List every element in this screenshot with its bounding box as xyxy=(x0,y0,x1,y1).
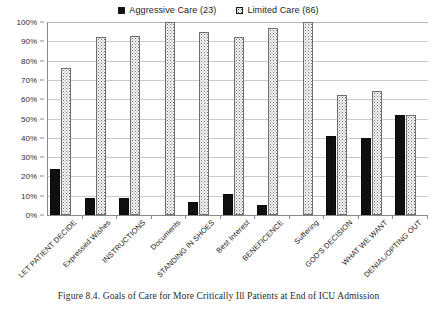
y-tick-label: 70% xyxy=(21,75,37,84)
y-tick-mark xyxy=(40,41,44,42)
y-tick-mark xyxy=(40,99,44,100)
bar-aggressive-care xyxy=(85,198,95,215)
figure-container: Aggressive Care (23) Limited Care (86) 0… xyxy=(0,0,437,311)
bar-limited-care xyxy=(165,22,175,215)
chart-legend: Aggressive Care (23) Limited Care (86) xyxy=(0,2,437,18)
bar-limited-care xyxy=(234,37,244,215)
bar-group xyxy=(289,22,324,215)
bar-group xyxy=(116,22,151,215)
legend-swatch-limited-icon xyxy=(236,7,243,14)
bar-group xyxy=(82,22,117,215)
y-tick-mark xyxy=(40,215,44,216)
bar-aggressive-care xyxy=(50,169,60,215)
y-tick-mark xyxy=(40,22,44,23)
x-category-label: LET PATIENT DECIDE xyxy=(16,218,78,280)
y-tick-label: 50% xyxy=(21,114,37,123)
bar-limited-care xyxy=(406,115,416,215)
legend-label-aggressive-care: Aggressive Care (23) xyxy=(129,5,216,15)
y-tick-mark xyxy=(40,176,44,177)
x-category-label: Documents xyxy=(148,218,182,252)
y-tick-mark xyxy=(40,157,44,158)
y-tick-label: 40% xyxy=(21,133,37,142)
bar-limited-care xyxy=(61,68,71,215)
bar-group xyxy=(323,22,358,215)
bar-aggressive-care xyxy=(188,202,198,216)
bar-aggressive-care xyxy=(223,194,233,215)
bar-group xyxy=(47,22,82,215)
y-axis: 0%10%20%30%40%50%60%70%80%90%100% xyxy=(0,22,44,215)
bar-limited-care xyxy=(268,28,278,215)
bar-limited-care xyxy=(303,22,313,215)
bar-aggressive-care xyxy=(395,115,405,215)
x-axis-labels: LET PATIENT DECIDEExpressed WishesINSTRU… xyxy=(0,218,437,286)
bars-layer xyxy=(47,22,427,215)
legend-label-limited-care: Limited Care (86) xyxy=(247,5,318,15)
legend-item-limited-care: Limited Care (86) xyxy=(236,5,318,15)
bar-aggressive-care xyxy=(326,136,336,215)
bar-aggressive-care xyxy=(119,198,129,215)
y-tick-label: 20% xyxy=(21,172,37,181)
y-tick-label: 100% xyxy=(17,18,37,27)
y-tick-mark xyxy=(40,195,44,196)
bar-aggressive-care xyxy=(257,205,267,215)
y-tick-label: 30% xyxy=(21,153,37,162)
bar-group xyxy=(358,22,393,215)
bar-limited-care xyxy=(130,36,140,215)
y-tick-label: 60% xyxy=(21,95,37,104)
y-tick-mark xyxy=(40,118,44,119)
x-category-label: Best Interest xyxy=(214,218,251,255)
bar-group xyxy=(254,22,289,215)
x-category-label: STANDING IN SHOES xyxy=(155,218,216,279)
bar-limited-care xyxy=(337,95,347,215)
bar-group xyxy=(185,22,220,215)
legend-item-aggressive-care: Aggressive Care (23) xyxy=(118,5,216,15)
bar-aggressive-care xyxy=(361,138,371,215)
y-tick-mark xyxy=(40,137,44,138)
bar-limited-care xyxy=(372,91,382,215)
y-tick-mark xyxy=(40,60,44,61)
y-tick-mark xyxy=(40,79,44,80)
bar-limited-care xyxy=(96,37,106,215)
figure-caption: Figure 8.4. Goals of Care for More Criti… xyxy=(0,291,437,301)
bar-group xyxy=(151,22,186,215)
legend-swatch-aggressive-icon xyxy=(118,7,125,14)
bar-group xyxy=(392,22,427,215)
y-tick-label: 10% xyxy=(21,191,37,200)
y-tick-label: 80% xyxy=(21,56,37,65)
x-category-label: Suffering xyxy=(292,218,320,246)
y-tick-label: 90% xyxy=(21,37,37,46)
x-category-label: DENIAL/OPTING OUT xyxy=(362,218,423,279)
bar-group xyxy=(220,22,255,215)
bar-limited-care xyxy=(199,32,209,215)
